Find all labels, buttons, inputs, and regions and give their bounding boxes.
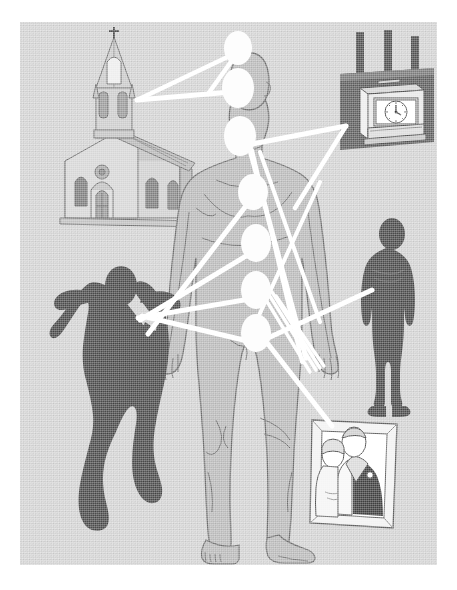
chakra-third-eye [222,68,254,108]
chakra-throat [224,116,256,156]
illustration-artwork [20,22,437,565]
illustration-panel [20,22,437,565]
chakra-sacral [241,271,271,309]
pipe-middle [384,30,392,76]
female-head [105,266,137,306]
framed-wedding-photo [310,420,397,528]
illustration-root [0,0,457,590]
chakra-crown [224,31,252,65]
male-head [379,218,405,250]
chakra-heart [238,174,268,210]
chakra-solar-plexus [241,224,271,262]
pipe-left [356,32,364,76]
chakra-root [241,314,271,352]
